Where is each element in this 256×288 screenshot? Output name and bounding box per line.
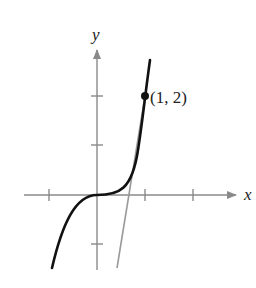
graph-figure: (1, 2) x y bbox=[0, 0, 256, 288]
x-axis-label: x bbox=[243, 185, 252, 204]
tangent-point bbox=[141, 92, 149, 100]
point-label: (1, 2) bbox=[150, 88, 187, 107]
cubic-curve bbox=[52, 60, 150, 268]
y-axis-label: y bbox=[90, 25, 100, 44]
